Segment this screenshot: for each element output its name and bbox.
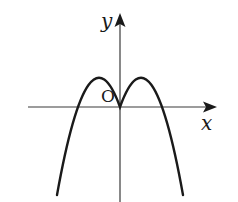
x-axis-label: x — [201, 111, 212, 135]
y-axis-label: y — [100, 9, 113, 33]
origin-label: O — [101, 86, 115, 106]
coordinate-diagram: y O x — [0, 0, 238, 202]
